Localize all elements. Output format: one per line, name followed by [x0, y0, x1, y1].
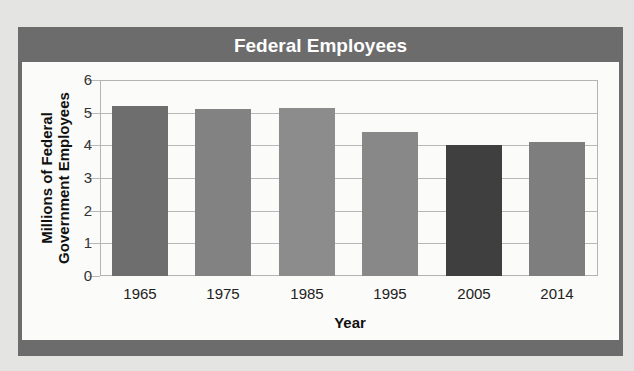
bar-2014: [529, 142, 585, 276]
x-axis-label: Year: [300, 314, 400, 331]
plot-area: [100, 80, 598, 276]
x-tick-label: 2014: [517, 285, 597, 302]
bar-1985: [279, 108, 335, 276]
x-tick-label: 1975: [183, 285, 263, 302]
bar-2005: [446, 145, 502, 276]
bar-1995: [362, 132, 418, 276]
y-tick-label: 5: [78, 105, 92, 120]
x-tick-label: 2005: [434, 285, 514, 302]
x-tick-label: 1995: [350, 285, 430, 302]
y-tick-label: 3: [78, 170, 92, 185]
y-axis-label-line-1: Millions of Federal: [38, 68, 55, 288]
y-axis-label-line-2: Government Employees: [55, 68, 72, 288]
chart-title: Federal Employees: [18, 27, 623, 62]
x-tick-label: 1985: [267, 285, 347, 302]
y-axis-label: Millions of Federal Government Employees: [38, 68, 72, 288]
y-tick-label: 1: [78, 235, 92, 250]
y-tick-label: 6: [78, 72, 92, 87]
x-tick-label: 1965: [100, 285, 180, 302]
bar-1975: [195, 109, 251, 276]
y-tick-label: 0: [78, 268, 92, 283]
y-tick-label: 2: [78, 203, 92, 218]
bar-1965: [112, 106, 168, 276]
y-tick-label: 4: [78, 137, 92, 152]
